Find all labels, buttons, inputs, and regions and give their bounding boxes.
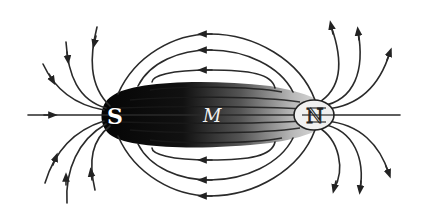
magnet-label: M — [202, 105, 222, 126]
bar-magnet-field-diagram: N S M — [0, 0, 426, 214]
north-pole: N — [294, 100, 334, 130]
north-pole-label: N — [306, 104, 324, 128]
south-pole-label: S — [107, 103, 123, 129]
